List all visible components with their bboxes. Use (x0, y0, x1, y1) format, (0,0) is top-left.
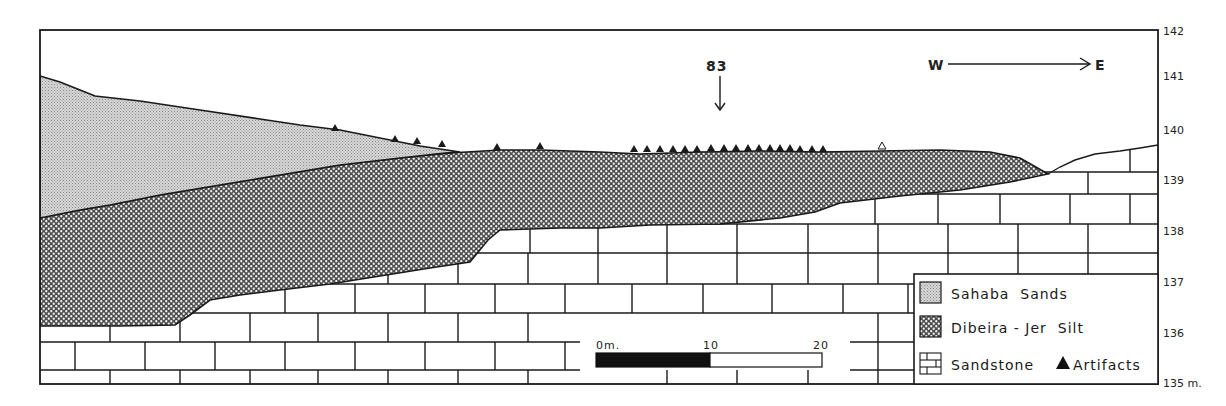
artifact-icon (681, 145, 689, 152)
cross-section-figure: 83 W E 142 141 140 139 138 137 136 135 m… (0, 0, 1226, 406)
scale-label-10: 10 (703, 339, 719, 352)
artifact-hollow-icon (878, 142, 886, 149)
legend-label: Dibeira - Jer Silt (951, 320, 1084, 336)
elevation-tick: 136 (1163, 327, 1184, 340)
artifact-icon (331, 124, 339, 131)
site-marker-label: 83 (706, 58, 727, 74)
legend: Sahaba Sands Dibeira - Jer Silt Sandston… (914, 274, 1158, 384)
legend-label: Sahaba Sands (951, 286, 1068, 302)
artifact-icon (493, 143, 501, 150)
artifact-icon (808, 145, 816, 152)
stipple-swatch-icon (920, 282, 941, 303)
artifact-icon (796, 145, 804, 152)
elevation-tick: 135 m. (1163, 377, 1202, 390)
artifact-icon (732, 144, 740, 151)
artifact-icon (776, 144, 784, 151)
artifact-icon (707, 144, 715, 151)
elevation-tick: 137 (1163, 276, 1184, 289)
elevation-tick: 141 (1163, 70, 1184, 83)
legend-label: Artifacts (1073, 357, 1141, 373)
east-label: E (1095, 57, 1106, 73)
artifact-icon (720, 144, 728, 151)
artifact-icon (766, 144, 774, 151)
artifact-icon (438, 140, 446, 147)
artifact-icon (656, 145, 664, 152)
scale-label-0: 0m. (596, 339, 620, 352)
artifact-icon (630, 145, 638, 152)
orientation-indicator: W E (928, 57, 1106, 73)
site-marker: 83 (706, 58, 727, 110)
artifact-icon (413, 137, 421, 144)
elevation-tick: 142 (1163, 25, 1184, 38)
legend-label: Sandstone (951, 357, 1034, 373)
artifact-icon (536, 142, 544, 149)
artifact-icon (819, 145, 827, 152)
ground-surface-east (1048, 145, 1158, 174)
legend-item-sandstone: Sandstone (920, 353, 1034, 374)
artifact-icon (643, 145, 651, 152)
brick-swatch-icon (920, 353, 941, 374)
west-label: W (928, 57, 944, 73)
scale-label-20: 20 (813, 339, 829, 352)
artifact-icon (669, 145, 677, 152)
elevation-axis: 142 141 140 139 138 137 136 135 m. (1163, 25, 1202, 390)
elevation-tick: 140 (1163, 124, 1184, 137)
scale-bar: 0m. 10 20 (596, 339, 829, 368)
crosshatch-swatch-icon (920, 316, 941, 337)
artifact-icon (755, 144, 763, 151)
artifact-icon (744, 144, 752, 151)
artifact-icon (693, 145, 701, 152)
artifact-icon (786, 144, 794, 151)
elevation-tick: 138 (1163, 225, 1184, 238)
artifact-icon (391, 135, 399, 142)
elevation-tick: 139 (1163, 174, 1184, 187)
